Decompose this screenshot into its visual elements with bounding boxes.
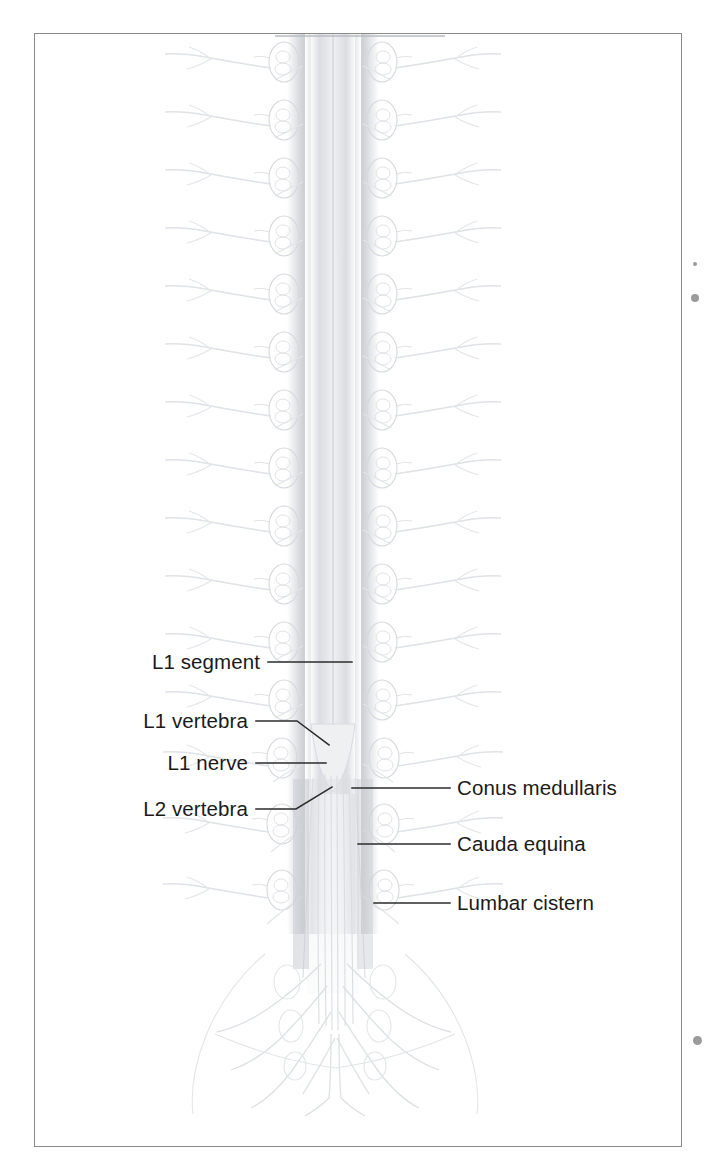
edge-speck-upper-right xyxy=(691,294,699,302)
label-l2-vertebra: L2 vertebra xyxy=(143,799,248,820)
edge-speck-lower-right xyxy=(693,1036,702,1045)
spinal-cord-illustration xyxy=(35,34,683,1148)
label-l1-vertebra: L1 vertebra xyxy=(143,711,248,732)
label-conus-medullaris: Conus medullaris xyxy=(457,778,617,799)
label-cauda-equina: Cauda equina xyxy=(457,834,586,855)
label-l1-segment: L1 segment xyxy=(152,652,260,673)
spinal-cord xyxy=(311,34,355,794)
plate-frame xyxy=(34,33,682,1147)
label-l1-nerve: L1 nerve xyxy=(167,753,248,774)
figure-root: L1 segment L1 vertebra L1 nerve L2 verte… xyxy=(0,0,706,1160)
edge-speck-upper-right-small xyxy=(693,262,697,266)
label-lumbar-cistern: Lumbar cistern xyxy=(457,893,594,914)
lumbar-cistern-shading xyxy=(293,779,373,994)
